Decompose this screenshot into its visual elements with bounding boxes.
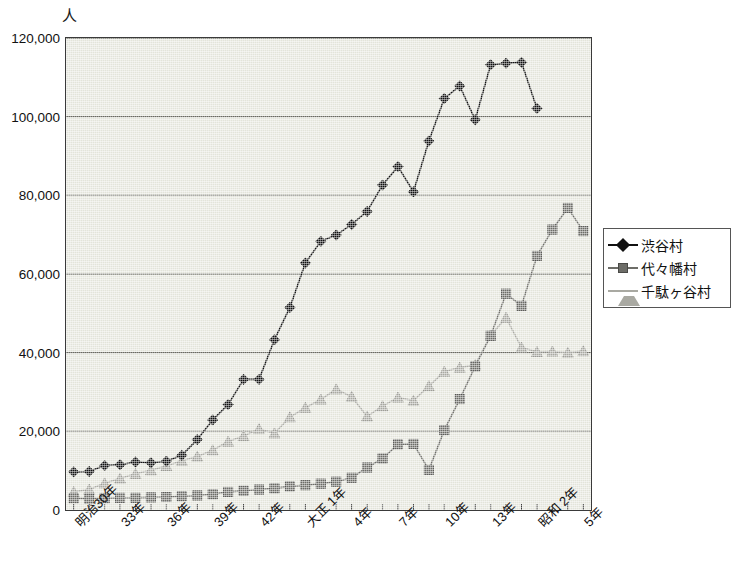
legend-label: 千駄ヶ谷村 [641,281,711,301]
data-point-square [486,331,495,340]
data-point-square [424,465,433,474]
data-point-square [409,439,418,448]
data-point-triangle [377,401,388,411]
y-axis-tick-label: 0 [2,503,60,518]
legend-label: 渋谷村 [641,235,683,255]
legend-label: 代々幡村 [641,258,697,278]
data-point-diamond [532,103,542,113]
y-axis-tick-label: 40,000 [2,345,60,360]
y-axis-tick-label: 100,000 [2,109,60,124]
data-point-square [363,463,372,472]
data-point-diamond [331,230,341,240]
chart-legend: 渋谷村 代々幡村 千駄ヶ谷村 [603,228,731,308]
data-point-square [285,482,294,491]
data-point-diamond [238,374,248,384]
data-point-triangle [207,445,218,455]
legend-item[interactable]: 渋谷村 [608,233,726,256]
legend-item[interactable]: 代々幡村 [608,256,726,279]
data-point-square [162,492,171,501]
legend-marker-square-icon [608,261,638,275]
data-point-diamond [516,57,526,67]
data-point-square [208,490,217,499]
population-line-chart: 人 020,00040,00060,00080,000100,000120,00… [0,0,738,578]
data-point-diamond [130,457,140,467]
data-point-square [517,301,526,310]
data-point-triangle [393,392,404,402]
data-point-diamond [316,236,326,246]
data-point-square [146,493,155,502]
data-point-diamond [69,467,79,477]
data-point-diamond [285,302,295,312]
y-axis-tick-label: 120,000 [2,31,60,46]
data-point-square [347,473,356,482]
data-point-square [254,485,263,494]
data-point-triangle [315,394,326,404]
y-axis-tick-label: 20,000 [2,424,60,439]
data-point-square [378,454,387,463]
plot-area [65,37,592,511]
data-point-square [440,426,449,435]
legend-marker-triangle-icon [608,284,638,298]
data-point-square [239,486,248,495]
data-point-square [579,227,588,236]
y-axis-tick-labels: 020,00040,00060,00080,000100,000120,000 [0,0,60,578]
data-point-triangle [501,312,512,322]
data-point-square [69,494,78,503]
y-axis-unit-label: 人 [62,4,77,25]
legend-item[interactable]: 千駄ヶ谷村 [608,279,726,302]
data-point-diamond [254,374,264,384]
data-point-diamond [269,334,279,344]
y-axis-tick-label: 80,000 [2,188,60,203]
data-point-triangle [346,391,357,401]
data-point-triangle [284,412,295,422]
y-axis-tick-label: 60,000 [2,267,60,282]
series-canvas [66,38,591,510]
data-point-square [193,491,202,500]
data-point-triangle [223,436,234,446]
data-point-diamond [300,258,310,268]
series-line [74,208,584,499]
data-point-triangle [300,402,311,412]
data-point-square [471,362,480,371]
data-point-square [270,484,279,493]
data-point-square [548,225,557,234]
data-point-square [301,481,310,490]
data-point-triangle [254,424,265,434]
data-point-triangle [238,431,249,441]
data-point-square [316,479,325,488]
data-point-diamond [501,58,511,68]
data-point-square [563,203,572,212]
data-point-diamond [99,460,109,470]
data-point-diamond [424,136,434,146]
data-point-square [501,289,510,298]
data-point-diamond [84,466,94,476]
data-point-square [224,487,233,496]
data-point-triangle [331,384,342,394]
data-point-diamond [485,60,495,70]
data-point-square [455,394,464,403]
data-point-triangle [192,451,203,461]
legend-marker-diamond-icon [608,238,638,252]
data-point-triangle [516,342,527,352]
data-point-diamond [115,460,125,470]
data-point-square [393,440,402,449]
data-point-square [532,251,541,260]
data-point-diamond [146,458,156,468]
